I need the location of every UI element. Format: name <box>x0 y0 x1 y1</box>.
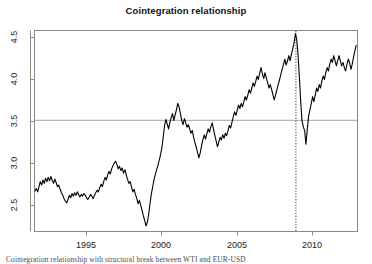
y-tick-label-2-5: 2.5 <box>9 193 19 217</box>
y-tick-label-3-0: 3.0 <box>9 151 19 175</box>
plot-canvas <box>0 0 372 264</box>
y-tick-label-3-5: 3.5 <box>9 109 19 133</box>
chart-figure: Cointegration relationship 2.5 3.0 3.5 <box>0 0 372 264</box>
x-axis-ticks <box>87 232 313 236</box>
y-axis-ticks <box>31 31 35 232</box>
y-tick-label-4-5: 4.5 <box>9 25 19 49</box>
x-tick-label-2005: 2005 <box>217 240 257 250</box>
figure-caption: Cointegration relationship with structur… <box>6 255 372 264</box>
x-tick-label-2010: 2010 <box>292 240 332 250</box>
series-line-cointegration-residual <box>35 34 356 226</box>
plot-frame <box>35 31 358 232</box>
x-tick-label-1995: 1995 <box>66 240 106 250</box>
y-tick-label-4-0: 4.0 <box>9 67 19 91</box>
x-tick-label-2000: 2000 <box>141 240 181 250</box>
